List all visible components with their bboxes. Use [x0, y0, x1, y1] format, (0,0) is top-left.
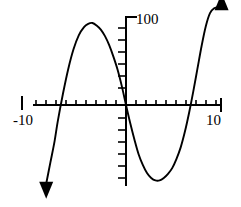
cubic-curve-path — [46, 7, 221, 183]
y-axis-max-label: 100 — [136, 12, 159, 27]
coordinate-plane — [0, 0, 241, 207]
graph-figure: -10 10 100 — [0, 0, 241, 207]
x-axis-min-label: -10 — [13, 113, 33, 128]
arrow-down-icon — [39, 182, 53, 199]
x-axis-max-label: 10 — [206, 113, 221, 128]
arrow-up-icon — [215, 0, 229, 10]
curve-group — [39, 0, 228, 199]
